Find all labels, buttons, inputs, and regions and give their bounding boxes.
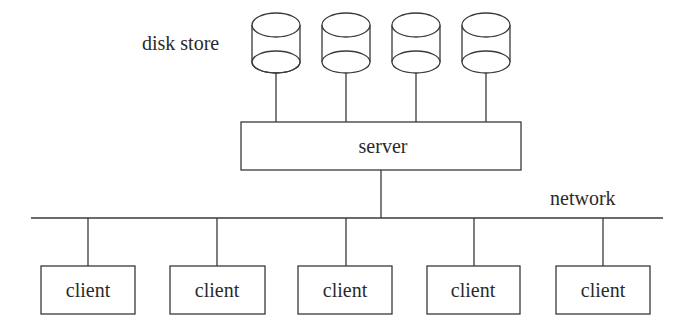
disk-store-label: disk store: [142, 32, 219, 54]
client-label: client: [451, 279, 496, 301]
client-label: client: [66, 279, 111, 301]
server-node: server: [241, 122, 521, 170]
disk-icon: [322, 13, 370, 122]
client-node: client: [427, 218, 520, 314]
disk-icon: [462, 13, 510, 122]
network-label: network: [550, 187, 616, 209]
disk-icon: [392, 13, 440, 122]
clients: client client client client client: [41, 218, 650, 314]
client-label: client: [581, 279, 626, 301]
disk-store: [252, 13, 510, 122]
client-label: client: [195, 279, 240, 301]
client-node: client: [556, 218, 650, 314]
client-node: client: [170, 218, 265, 314]
client-label: client: [323, 279, 368, 301]
disk-icon: [252, 13, 300, 122]
client-node: client: [298, 218, 392, 314]
server-label: server: [359, 135, 408, 157]
network-diagram: disk store serv: [0, 0, 682, 332]
client-node: client: [41, 218, 135, 314]
